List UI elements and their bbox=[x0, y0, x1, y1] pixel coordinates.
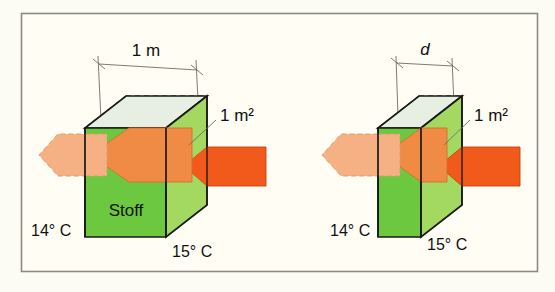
right-temp-hot-label: 15° C bbox=[427, 236, 467, 253]
left-temp-cold-label: 14° C bbox=[31, 222, 71, 239]
left-temp-hot-label: 15° C bbox=[172, 243, 212, 260]
left-width-label: 1 m bbox=[132, 41, 160, 60]
right-width-label: d bbox=[420, 40, 430, 59]
right-area-label: 1 m² bbox=[474, 106, 508, 125]
left-area-label: 1 m² bbox=[220, 106, 254, 125]
figure-canvas: 1 m bbox=[0, 0, 555, 292]
left-material-label: Stoff bbox=[109, 201, 144, 220]
heat-out-arrow-overlap-left bbox=[85, 134, 107, 176]
heat-through-arrow-left bbox=[106, 128, 192, 182]
heat-out-arrow-overlap-right bbox=[378, 134, 400, 176]
right-temp-cold-label: 14° C bbox=[330, 222, 370, 239]
thermal-conduction-diagram: 1 m bbox=[0, 0, 555, 292]
